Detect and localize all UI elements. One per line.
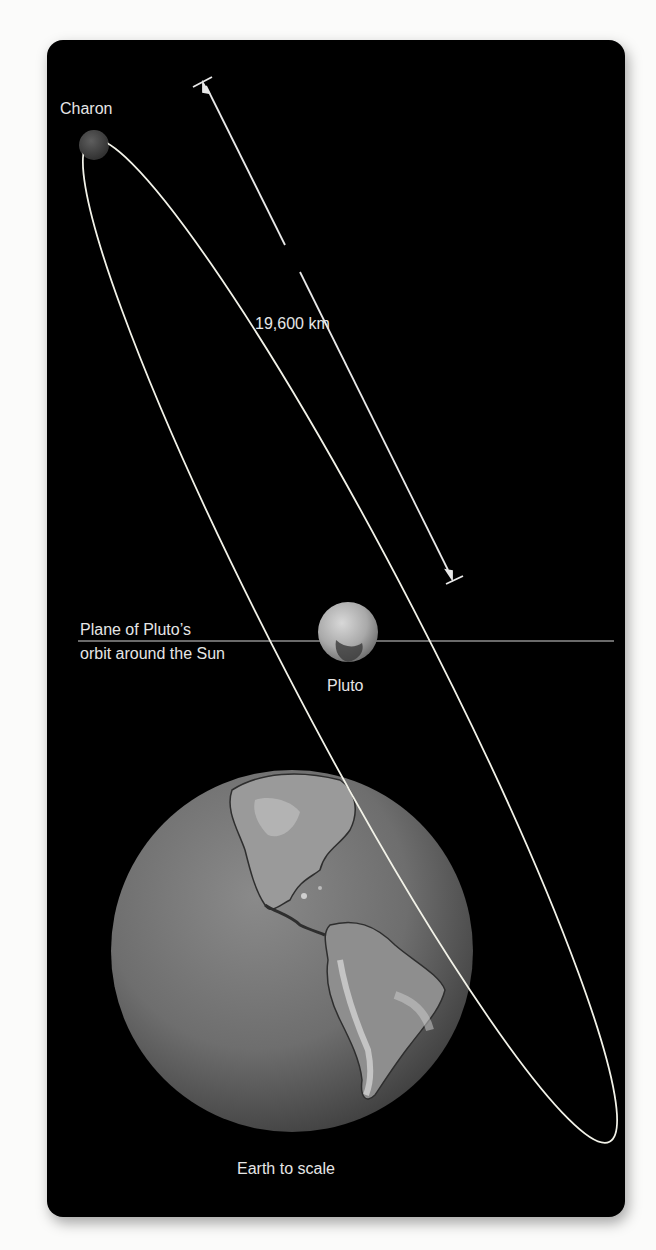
orbital-plane-label-line1: Plane of Pluto’s <box>80 620 191 640</box>
pluto-label: Pluto <box>327 676 363 696</box>
earth-globe <box>111 770 473 1132</box>
diagram-panel: Charon 19,600 km Plane of Pluto’s orbit … <box>47 40 625 1217</box>
pluto-sphere <box>318 602 378 662</box>
earth-label: Earth to scale <box>237 1159 335 1179</box>
distance-label: 19,600 km <box>255 314 330 334</box>
orbital-plane-label-line2: orbit around the Sun <box>80 644 225 664</box>
charon-label: Charon <box>60 99 112 119</box>
